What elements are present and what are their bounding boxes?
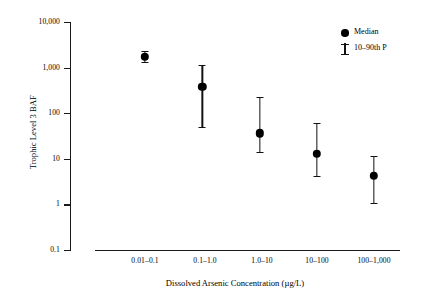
y-axis-tick <box>64 159 71 160</box>
legend-label: 10–90th P <box>354 43 387 53</box>
median-data-point <box>370 172 378 180</box>
x-axis-tick-label: 0.01–0.1 <box>131 256 158 265</box>
error-bar-cap <box>313 176 320 177</box>
y-axis-title: Trophic Level 3 BAF <box>29 52 38 212</box>
chart-figure: 10,000 1,000 100 10 1 0.1 Trophic Level … <box>0 0 423 303</box>
x-axis-spine <box>95 250 400 251</box>
x-axis-tick-label: 10–100 <box>305 256 328 265</box>
error-bar-cap <box>313 123 320 124</box>
y-axis-tick-label: 1,000 <box>18 64 60 72</box>
y-axis-tick-label: 1 <box>18 200 60 208</box>
x-axis-tick-label: 1.0–10 <box>251 256 272 265</box>
x-axis-title: Dissolved Arsenic Concentration (µg/L) <box>70 279 400 288</box>
median-data-point <box>141 52 149 60</box>
x-axis-tick-label: 100–1,000 <box>357 256 390 265</box>
legend-entry-percentile: 10–90th P <box>332 42 422 58</box>
chart-legend: Median 10–90th P <box>332 26 422 58</box>
y-axis-tick <box>64 113 71 114</box>
error-bar-cap <box>371 156 378 157</box>
error-bar-cap <box>256 97 263 98</box>
legend-label: Median <box>354 27 378 37</box>
error-bar-cap <box>199 65 206 66</box>
error-bar-cap <box>199 127 206 128</box>
error-bar-icon <box>341 54 349 55</box>
filled-circle-icon <box>341 29 349 37</box>
y-axis-tick <box>64 250 71 251</box>
error-bar-cap <box>371 203 378 204</box>
error-bar <box>259 97 260 152</box>
y-axis-tick-label: 10,000 <box>18 18 60 26</box>
y-axis-spine <box>70 22 71 250</box>
median-data-point <box>313 149 321 157</box>
error-bar <box>202 65 203 127</box>
x-axis-tick-label: 0.1–1.0 <box>193 256 216 265</box>
y-axis-tick-label: 100 <box>18 109 60 117</box>
error-bar-cap <box>142 62 149 63</box>
y-axis-tick <box>64 22 71 23</box>
y-axis-tick <box>64 204 71 205</box>
y-axis-tick-label: 0.1 <box>18 246 60 254</box>
median-data-point <box>198 83 206 91</box>
legend-entry-median: Median <box>332 26 422 42</box>
median-data-point <box>255 129 263 137</box>
y-axis-tick <box>64 68 71 69</box>
error-bar-cap <box>256 152 263 153</box>
y-axis-tick-label: 10 <box>18 155 60 163</box>
